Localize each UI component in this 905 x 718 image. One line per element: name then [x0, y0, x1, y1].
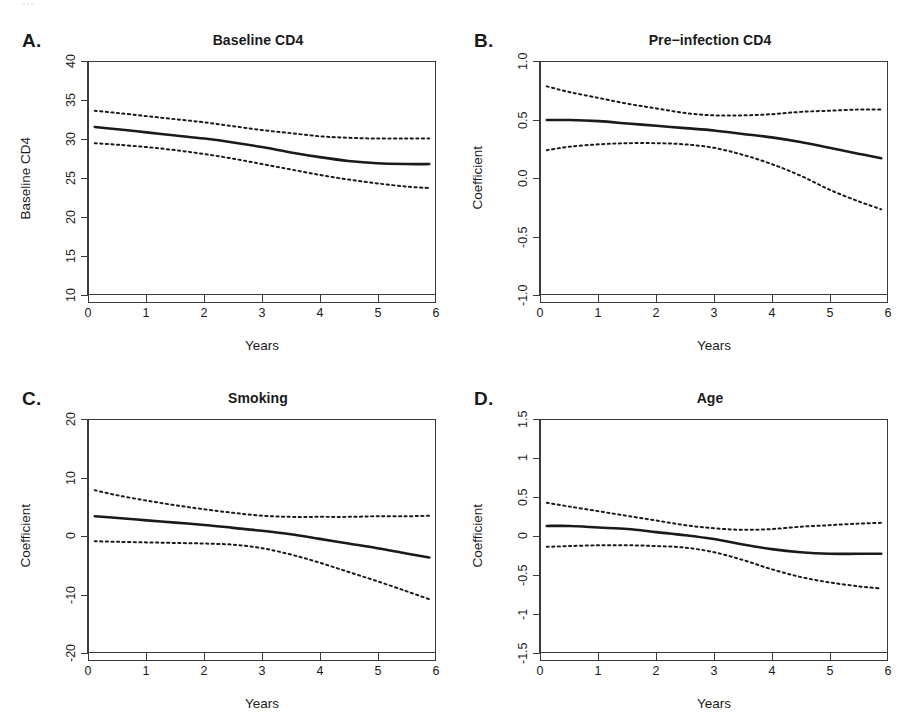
panel-d-y-tick-label: -1: [516, 596, 530, 632]
panel-b-y-tick-label: -1.0: [516, 277, 530, 313]
panel-a-x-tick-label: 4: [317, 306, 324, 320]
panel-a-y-tick-label: 20: [64, 199, 78, 235]
panel-c-x-tick-label: 3: [259, 664, 266, 678]
panel-c-y-tick-label: -20: [64, 635, 78, 671]
panel-d-x-tick: [656, 653, 657, 660]
panel-a-x-tick: [146, 295, 147, 302]
panel-d-y-tick: [533, 653, 540, 654]
panel-b-y-tick-label: 1.0: [516, 43, 530, 79]
panel-c-y-tick: [81, 653, 88, 654]
panel-d-plot-area: [540, 419, 888, 653]
panel-a-y-tick-label: 25: [64, 160, 78, 196]
panel-d-x-tick-label: 4: [769, 664, 776, 678]
panel-d-y-tick-label: 1.5: [516, 401, 530, 437]
panel-d-x-tick-label: 1: [595, 664, 602, 678]
panel-b-y-tick-label: -0.5: [516, 219, 530, 255]
panel-d: D. Age Coefficient -1.5-1-0.500.511.5 01…: [452, 366, 904, 718]
panel-c-x-tick: [88, 653, 89, 660]
panel-d-y-tick-label: 0: [516, 518, 530, 554]
panel-d-y-tick-label: -0.5: [516, 557, 530, 593]
panel-d-series-upper-95-ci: [547, 503, 881, 530]
panel-c-plot-area: [88, 419, 436, 653]
panel-c-svg: [89, 420, 435, 652]
panel-b-y-tick-label: 0.5: [516, 102, 530, 138]
panel-b-y-axis: -1.0-0.50.00.51.0: [452, 61, 540, 295]
panel-c-x-tick-label: 4: [317, 664, 324, 678]
panel-c-x-tick: [204, 653, 205, 660]
panel-a-y-tick-label: 15: [64, 238, 78, 274]
panel-d-x-tick: [540, 653, 541, 660]
panel-d-x-tick: [830, 653, 831, 660]
panel-d-x-tick: [887, 653, 888, 660]
panel-b-y-tick: [533, 295, 540, 296]
panel-c-x-tick-label: 0: [85, 664, 92, 678]
panel-b-x-tick-label: 6: [885, 306, 892, 320]
panel-b-x-tick-label: 4: [769, 306, 776, 320]
panel-b-series-estimate: [547, 120, 881, 158]
panel-d-y-tick-label: 0.5: [516, 479, 530, 515]
panel-b-x-axis: 0123456: [540, 295, 888, 339]
panel-c-y-axis: -20-1001020: [0, 419, 88, 653]
panel-d-y-axis: -1.5-1-0.500.511.5: [452, 419, 540, 653]
panel-b-plot-area: [540, 61, 888, 295]
panel-a-x-tick-label: 2: [201, 306, 208, 320]
panel-b-x-tick: [830, 295, 831, 302]
panel-a-series-estimate: [95, 127, 429, 164]
panel-c-x-tick-label: 2: [201, 664, 208, 678]
panel-a-x-spine: [88, 302, 436, 303]
panel-a-series-upper-95-ci: [95, 111, 429, 139]
panel-a-y-tick-label: 30: [64, 121, 78, 157]
panel-c-x-axis-title: Years: [88, 696, 436, 711]
panel-b-svg: [541, 62, 887, 294]
panel-d-x-tick-label: 6: [885, 664, 892, 678]
panel-a-x-tick: [435, 295, 436, 302]
panel-c-x-spine: [88, 660, 436, 661]
panel-d-series-lower-95-ci: [547, 545, 881, 588]
panel-c-series-lower-95-ci: [95, 541, 429, 599]
panel-b: B. Pre−infection CD4 Coefficient -1.0-0.…: [452, 8, 904, 366]
panel-a-y-axis: 10152025303540: [0, 61, 88, 295]
panel-d-x-axis: 0123456: [540, 653, 888, 697]
panel-c-title: Smoking: [80, 390, 436, 406]
panel-b-x-tick-label: 1: [595, 306, 602, 320]
panel-a-letter: A.: [22, 30, 42, 52]
panel-c-x-tick: [435, 653, 436, 660]
panel-a-x-tick: [204, 295, 205, 302]
panel-d-y-tick-label: -1.5: [516, 635, 530, 671]
panel-a-y-tick: [81, 295, 88, 296]
panel-b-x-tick: [656, 295, 657, 302]
panel-b-x-tick: [887, 295, 888, 302]
panel-b-x-tick-label: 5: [827, 306, 834, 320]
panel-d-svg: [541, 420, 887, 652]
panel-d-x-tick-label: 0: [537, 664, 544, 678]
panel-d-title: Age: [532, 390, 888, 406]
panel-b-x-tick: [772, 295, 773, 302]
panel-c-series-estimate: [95, 516, 429, 557]
panel-b-x-tick: [598, 295, 599, 302]
panel-c-x-tick-label: 1: [143, 664, 150, 678]
panel-c-y-tick-label: 0: [64, 518, 78, 554]
panel-c-y-tick-label: 10: [64, 460, 78, 496]
panel-c-letter: C.: [22, 388, 42, 410]
panel-c-x-tick: [320, 653, 321, 660]
panel-a-y-tick-label: 10: [64, 277, 78, 313]
panel-a-x-tick-label: 5: [375, 306, 382, 320]
panel-d-x-tick: [772, 653, 773, 660]
panel-b-x-tick-label: 0: [537, 306, 544, 320]
panel-d-x-tick: [598, 653, 599, 660]
panel-d-x-tick-label: 2: [653, 664, 660, 678]
figure-canvas: ... A. Baseline CD4 Baseline CD4 1015202…: [0, 0, 905, 718]
panel-d-series-estimate: [547, 526, 881, 554]
panel-d-letter: D.: [474, 388, 494, 410]
panel-b-series-lower-95-ci: [547, 143, 881, 209]
panel-b-x-tick: [714, 295, 715, 302]
panel-c-x-tick-label: 6: [433, 664, 440, 678]
panel-c-x-tick: [378, 653, 379, 660]
panel-a-x-tick: [262, 295, 263, 302]
panel-b-x-spine: [540, 302, 888, 303]
panel-d-x-axis-title: Years: [540, 696, 888, 711]
panel-b-letter: B.: [474, 30, 494, 52]
panel-c-x-tick-label: 5: [375, 664, 382, 678]
panel-a-y-tick-label: 40: [64, 43, 78, 79]
panel-d-y-tick-label: 1: [516, 440, 530, 476]
